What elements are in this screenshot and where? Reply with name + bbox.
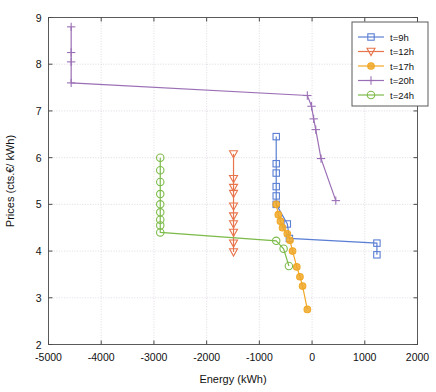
chart-svg: -5000-4000-3000-2000-1000010002000 23456…: [0, 0, 436, 392]
x-tick-label: -3000: [140, 351, 167, 363]
legend-label: t=17h: [390, 61, 414, 72]
y-tick-label: 3: [36, 292, 42, 304]
legend-label: t=24h: [390, 90, 414, 101]
x-tick-label: 1000: [353, 351, 377, 363]
x-tick-label: -1000: [246, 351, 273, 363]
x-tick-label: -4000: [88, 351, 115, 363]
y-tick-label: 2: [36, 339, 42, 351]
data-point-marker: [368, 63, 375, 70]
y-tick-label: 6: [36, 152, 42, 164]
data-point-marker: [277, 218, 284, 225]
data-point-marker: [284, 230, 291, 237]
x-tick-label: -5000: [35, 351, 62, 363]
x-tick-label: 0: [309, 351, 315, 363]
y-tick-label: 7: [36, 105, 42, 117]
legend-label: t=20h: [390, 75, 414, 86]
data-point-marker: [273, 201, 280, 208]
data-point-marker: [289, 248, 296, 255]
y-axis-label: Prices (cts.€/ kWh): [4, 135, 16, 227]
y-tick-label: 5: [36, 198, 42, 210]
data-point-marker: [275, 211, 282, 218]
data-point-marker: [279, 224, 286, 231]
y-tick-label: 8: [36, 58, 42, 70]
data-point-marker: [287, 237, 294, 244]
x-tick-label: 2000: [406, 351, 430, 363]
y-tick-label: 9: [36, 12, 42, 24]
y-tick-label: 4: [36, 245, 42, 257]
data-point-marker: [293, 264, 300, 271]
data-point-marker: [304, 306, 311, 313]
chart-figure: -5000-4000-3000-2000-1000010002000 23456…: [0, 0, 436, 392]
legend[interactable]: t=9ht=12ht=17ht=20ht=24h: [352, 22, 428, 106]
x-axis-label: Energy (kWh): [199, 373, 266, 385]
legend-label: t=12h: [390, 46, 414, 57]
data-point-marker: [299, 283, 306, 290]
legend-label: t=9h: [390, 32, 409, 43]
data-point-marker: [297, 273, 304, 280]
x-tick-label: -2000: [193, 351, 220, 363]
